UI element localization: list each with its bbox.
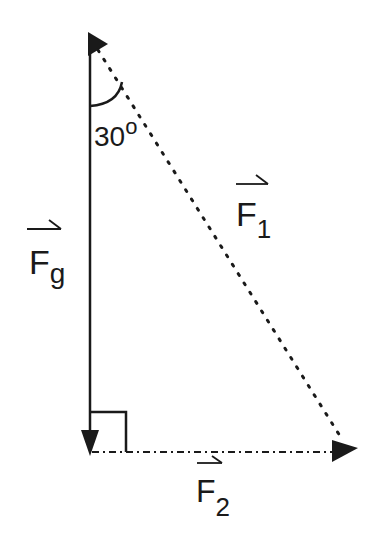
svg-text:F1: F1 bbox=[236, 195, 271, 244]
angle-label: 30o bbox=[94, 114, 137, 152]
angle-arc bbox=[90, 82, 122, 106]
label-f1: F1 bbox=[236, 175, 271, 244]
vector-fg bbox=[81, 38, 99, 456]
label-fg: Fg bbox=[27, 220, 65, 289]
svg-text:F2: F2 bbox=[196, 473, 230, 522]
label-f2: F2 bbox=[196, 456, 230, 522]
force-diagram: 30o F1 Fg F2 bbox=[0, 0, 390, 547]
svg-text:Fg: Fg bbox=[29, 243, 65, 289]
vector-f1 bbox=[98, 50, 358, 462]
arrowhead-right-icon bbox=[332, 440, 358, 462]
